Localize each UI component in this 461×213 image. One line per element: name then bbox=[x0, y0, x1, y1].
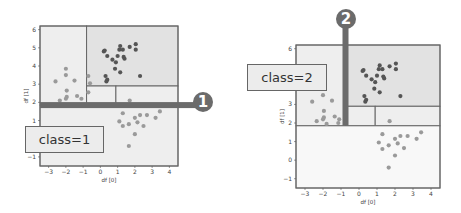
data-point bbox=[361, 68, 365, 72]
data-point bbox=[336, 121, 340, 125]
data-point bbox=[134, 42, 138, 46]
data-point bbox=[387, 165, 391, 169]
decision-region bbox=[40, 26, 87, 105]
data-point bbox=[158, 109, 162, 113]
data-point bbox=[86, 74, 90, 78]
data-point bbox=[377, 67, 381, 71]
data-point bbox=[133, 116, 137, 120]
data-point bbox=[415, 137, 419, 141]
data-point bbox=[380, 132, 384, 136]
data-point bbox=[133, 132, 137, 136]
data-point bbox=[53, 79, 57, 83]
x-tick-label: 4 bbox=[429, 190, 433, 197]
x-axis-label: df [0] bbox=[361, 199, 376, 205]
data-point bbox=[378, 63, 382, 67]
x-tick-label: 3 bbox=[150, 168, 154, 175]
step-number-2: 2 bbox=[341, 10, 351, 28]
data-point bbox=[121, 48, 125, 52]
scatter-plot-split-1: −3−2−101234−10123456df [0]df [1] bbox=[23, 26, 205, 183]
data-point bbox=[322, 115, 326, 119]
data-point bbox=[394, 61, 398, 65]
x-tick-label: 0 bbox=[98, 168, 102, 175]
data-point bbox=[315, 119, 319, 123]
decision-region bbox=[87, 26, 178, 86]
data-point bbox=[121, 111, 125, 115]
data-point bbox=[65, 88, 69, 92]
data-point bbox=[88, 81, 92, 85]
data-point bbox=[72, 78, 76, 82]
step-badge-2: 2 bbox=[336, 9, 356, 29]
data-point bbox=[364, 74, 368, 78]
data-point bbox=[75, 94, 79, 98]
data-point bbox=[398, 134, 402, 138]
data-point bbox=[114, 60, 118, 64]
x-tick-label: 4 bbox=[167, 168, 171, 175]
x-axis-label: df [0] bbox=[102, 177, 117, 183]
scatter-plot-split-2: −3−2−101234−10123456df [0]df [1] bbox=[279, 22, 440, 205]
data-point bbox=[380, 67, 384, 71]
x-tick-label: −1 bbox=[79, 168, 88, 175]
data-point bbox=[121, 124, 125, 128]
data-point bbox=[375, 74, 379, 78]
data-point bbox=[116, 54, 120, 58]
data-point bbox=[79, 97, 83, 101]
data-point bbox=[370, 77, 374, 81]
data-point bbox=[378, 90, 382, 94]
y-tick-label: 3 bbox=[288, 100, 292, 107]
data-point bbox=[128, 98, 132, 102]
data-point bbox=[330, 99, 334, 103]
y-axis-label: df [1] bbox=[23, 89, 29, 104]
data-point bbox=[127, 122, 131, 126]
decision-tree-split-diagram: −3−2−101234−10123456df [0]df [1] −3−2−10… bbox=[0, 0, 461, 213]
y-tick-label: 1 bbox=[288, 138, 292, 145]
decision-region bbox=[346, 45, 441, 106]
y-tick-label: 6 bbox=[32, 26, 36, 33]
data-point bbox=[322, 109, 326, 113]
data-point bbox=[396, 141, 400, 145]
data-point bbox=[387, 143, 391, 147]
step-badge-1: 1 bbox=[193, 92, 213, 112]
data-point bbox=[362, 94, 366, 98]
data-point bbox=[402, 146, 406, 150]
split-line-vertical bbox=[343, 22, 349, 126]
step-number-1: 1 bbox=[198, 93, 208, 111]
x-tick-label: 1 bbox=[375, 190, 379, 197]
class-label-text-2: class=2 bbox=[261, 70, 312, 85]
decision-region bbox=[375, 106, 440, 126]
x-tick-label: −3 bbox=[301, 190, 310, 197]
y-tick-label: 5 bbox=[32, 44, 36, 51]
decision-region bbox=[296, 126, 440, 188]
data-point bbox=[363, 100, 367, 104]
data-point bbox=[110, 58, 114, 62]
data-point bbox=[122, 57, 126, 61]
class-label-text-1: class=1 bbox=[39, 132, 90, 147]
y-tick-label: 3 bbox=[32, 80, 36, 87]
data-point bbox=[105, 54, 109, 58]
data-point bbox=[134, 48, 138, 52]
data-point bbox=[373, 80, 377, 84]
x-tick-label: −2 bbox=[319, 190, 328, 197]
y-tick-label: 4 bbox=[32, 62, 36, 69]
y-tick-label: 2 bbox=[288, 119, 292, 126]
y-tick-label: −1 bbox=[27, 153, 36, 160]
data-point bbox=[117, 119, 121, 123]
data-point bbox=[310, 100, 314, 104]
data-point bbox=[86, 90, 90, 94]
data-point bbox=[127, 144, 131, 148]
y-axis-label: df [1] bbox=[279, 109, 285, 124]
data-point bbox=[388, 119, 392, 123]
data-point bbox=[419, 130, 423, 134]
y-tick-label: 0 bbox=[288, 156, 292, 163]
y-tick-label: 1 bbox=[32, 117, 36, 124]
data-point bbox=[145, 113, 149, 117]
data-point bbox=[153, 116, 157, 120]
class-label-box-1: class=1 bbox=[25, 126, 104, 153]
data-point bbox=[141, 124, 145, 128]
data-point bbox=[321, 93, 325, 97]
x-tick-label: 1 bbox=[116, 168, 120, 175]
x-tick-label: −1 bbox=[337, 190, 346, 197]
data-point bbox=[382, 76, 386, 80]
data-point bbox=[333, 114, 337, 118]
data-point bbox=[398, 94, 402, 98]
data-point bbox=[103, 48, 107, 52]
